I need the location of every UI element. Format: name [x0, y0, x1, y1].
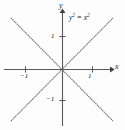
- math-figure-y-squared-equals-x-squared: y x −1 1 1 −1 y2 = x2: [0, 0, 125, 130]
- y-axis-label: y: [59, 2, 63, 10]
- equation-operator: =: [75, 13, 84, 22]
- x-axis-label: x: [115, 63, 119, 71]
- equation-annotation: y2 = x2: [69, 14, 90, 22]
- equation-x-exponent: 2: [87, 12, 90, 18]
- x-tick-label-positive-one: 1: [88, 73, 92, 80]
- graph-canvas: [0, 0, 125, 130]
- x-axis-arrowhead: [110, 67, 115, 73]
- y-tick-label-negative-one: −1: [46, 96, 54, 103]
- y-tick-label-positive-one: 1: [51, 33, 55, 40]
- x-tick-label-negative-one: −1: [20, 73, 28, 80]
